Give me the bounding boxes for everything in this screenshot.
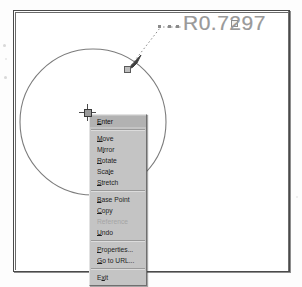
menu-item-label: Rotate xyxy=(97,155,117,166)
menu-item-label: Exit xyxy=(97,272,108,283)
menu-item-reference: Reference xyxy=(90,216,146,227)
circle-radius-grip[interactable] xyxy=(125,67,131,73)
screenshot-root: R0.7297 Enter Move Mirror Rotate Scale S… xyxy=(0,0,302,287)
menu-item-base-point[interactable]: Base Point xyxy=(90,194,146,205)
leader-grip[interactable] xyxy=(168,25,171,28)
menu-item-enter[interactable]: Enter xyxy=(90,116,146,127)
menu-separator xyxy=(91,268,145,270)
menu-separator xyxy=(91,240,145,242)
menu-item-move[interactable]: Move xyxy=(90,133,146,144)
radius-dimension-text[interactable]: R0.7297 xyxy=(183,11,266,35)
grip-shortcut-menu[interactable]: Enter Move Mirror Rotate Scale Stretch B… xyxy=(89,114,147,286)
menu-separator xyxy=(91,129,145,131)
menu-item-label: Enter xyxy=(97,116,113,127)
menu-item-mirror[interactable]: Mirror xyxy=(90,144,146,155)
menu-item-undo[interactable]: Undo xyxy=(90,227,146,238)
menu-item-label: Undo xyxy=(97,227,113,238)
menu-item-label: Properties... xyxy=(97,244,133,255)
menu-item-label: Mirror xyxy=(97,144,115,155)
menu-item-stretch[interactable]: Stretch xyxy=(90,177,146,188)
menu-item-exit[interactable]: Exit xyxy=(90,272,146,283)
menu-item-label: Reference xyxy=(97,216,128,227)
menu-item-rotate[interactable]: Rotate xyxy=(90,155,146,166)
menu-separator xyxy=(91,190,145,192)
menu-item-label: Move xyxy=(97,133,113,144)
cad-canvas xyxy=(0,0,302,287)
menu-item-copy[interactable]: Copy xyxy=(90,205,146,216)
menu-item-properties[interactable]: Properties... xyxy=(90,244,146,255)
menu-item-go-to-url[interactable]: Go to URL... xyxy=(90,255,146,266)
menu-item-label: Copy xyxy=(97,205,113,216)
leader-grip[interactable] xyxy=(176,25,179,28)
menu-item-scale[interactable]: Scale xyxy=(90,166,146,177)
leader-grip[interactable] xyxy=(158,25,161,28)
menu-item-label: Go to URL... xyxy=(97,255,134,266)
menu-item-label: Base Point xyxy=(97,194,130,205)
menu-item-label: Stretch xyxy=(97,177,118,188)
menu-item-label: Scale xyxy=(97,166,114,177)
